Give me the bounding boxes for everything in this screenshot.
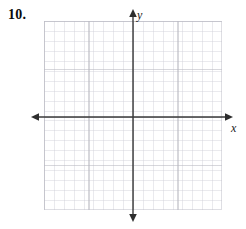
x-axis-right-arrow-icon: [225, 113, 233, 121]
problem-number-label: 10.: [8, 8, 26, 22]
x-axis-left-arrow-icon: [31, 113, 39, 121]
coordinate-graph[interactable]: [44, 21, 222, 210]
y-axis-label: y: [137, 9, 142, 21]
x-axis-label: x: [231, 122, 236, 134]
grid-border: [44, 21, 222, 210]
worksheet-problem: 10. y x: [0, 0, 246, 229]
y-axis-up-arrow-icon: [129, 9, 137, 17]
y-axis-down-arrow-icon: [129, 214, 137, 222]
